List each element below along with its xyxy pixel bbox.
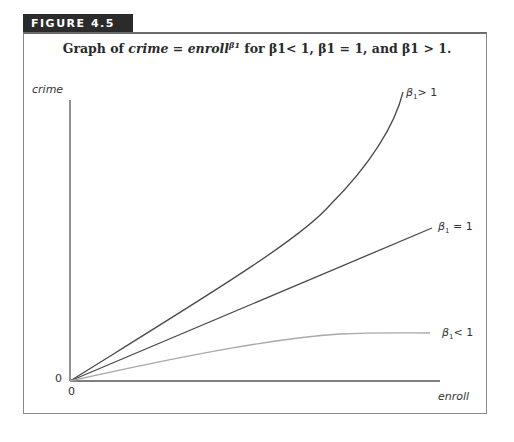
curve-beta-eq-1	[70, 228, 432, 381]
x-axis-label: enroll	[438, 390, 469, 403]
chart-plot	[0, 0, 514, 442]
curve-beta-gt-1	[70, 92, 403, 381]
label-beta-lt-1: β1< 1	[442, 326, 473, 341]
curve-beta-lt-1	[70, 333, 430, 381]
label-beta-eq-1: β1 = 1	[438, 220, 473, 235]
y-axis-label: crime	[32, 83, 63, 96]
label-beta-gt-1: β1> 1	[406, 86, 437, 101]
y-origin-label: 0	[55, 372, 62, 385]
x-origin-label: 0	[68, 385, 75, 398]
